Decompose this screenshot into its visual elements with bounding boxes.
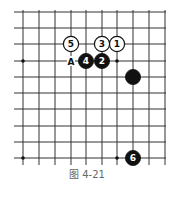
move-number: 1 <box>114 39 120 49</box>
move-number: 3 <box>99 39 105 49</box>
marker-label-a: A <box>68 57 75 67</box>
star-point <box>21 59 25 63</box>
move-number: 6 <box>130 153 136 163</box>
figure-caption: 图 4-21 <box>0 166 174 181</box>
move-number: 5 <box>68 39 74 49</box>
black-stone <box>125 69 140 84</box>
move-number: 4 <box>83 56 89 66</box>
star-point <box>115 156 119 160</box>
star-point <box>21 156 25 160</box>
star-point <box>115 59 119 63</box>
go-board: A123456 <box>0 0 174 166</box>
move-number: 2 <box>99 56 105 66</box>
